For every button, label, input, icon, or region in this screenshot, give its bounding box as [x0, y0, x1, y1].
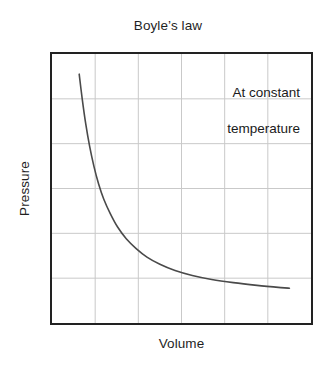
- plot-area: At constant temperature: [50, 52, 313, 325]
- y-axis-label: Pressure: [17, 161, 32, 216]
- x-axis-label: Volume: [50, 336, 313, 352]
- pressure-volume-curve: [79, 74, 289, 288]
- plot-canvas: [52, 54, 311, 323]
- y-axis-label-container: Pressure: [13, 52, 35, 325]
- boyles-law-figure: Boyle’s law Pressure At constant tempera…: [0, 0, 336, 370]
- chart-title: Boyle’s law: [0, 18, 336, 34]
